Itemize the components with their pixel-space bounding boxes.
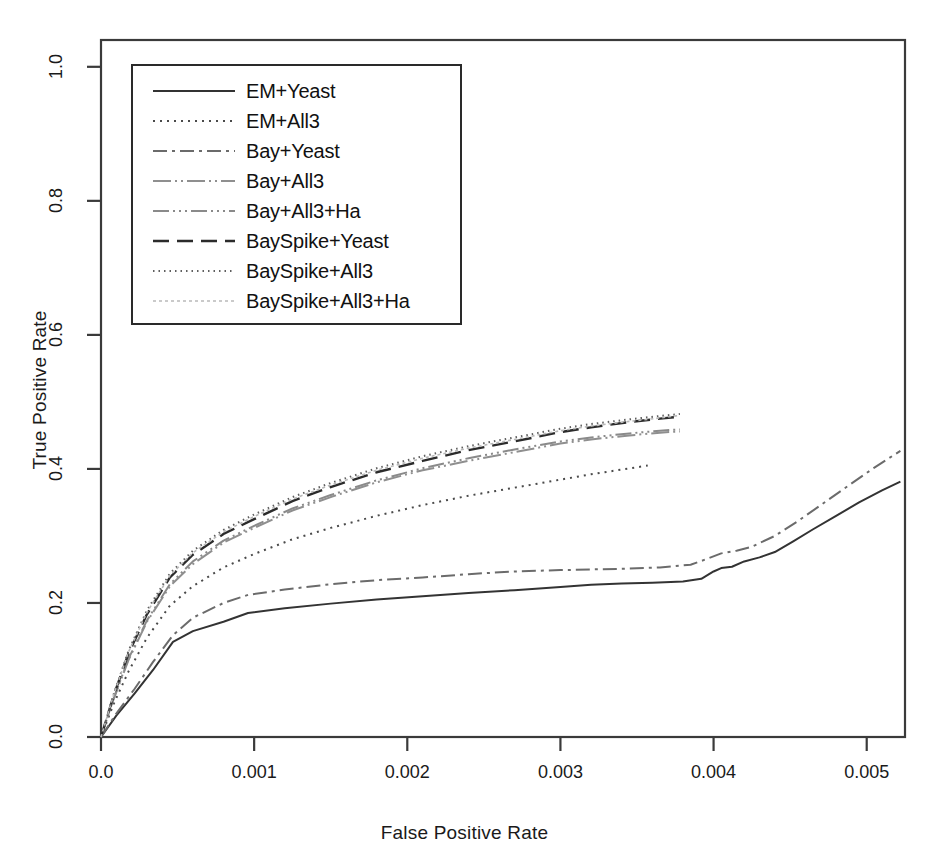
legend-item-label: Bay+Yeast — [246, 140, 340, 163]
y-tick-label: 0.8 — [46, 180, 67, 220]
legend-line-swatch-icon — [151, 166, 246, 196]
legend-item-bayspike-yeast[interactable]: BaySpike+Yeast — [133, 226, 464, 256]
legend-item-label: Bay+All3 — [246, 170, 324, 193]
x-tick-label: 0.005 — [844, 762, 889, 783]
legend-item-bay-all3[interactable]: Bay+All3 — [133, 166, 464, 196]
legend-item-em-yeast[interactable]: EM+Yeast — [133, 76, 464, 106]
legend-item-bay-yeast[interactable]: Bay+Yeast — [133, 136, 464, 166]
legend: EM+YeastEM+All3Bay+YeastBay+All3Bay+All3… — [131, 64, 462, 325]
series-line-bayspike-yeast — [101, 417, 680, 737]
legend-item-bayspike-all3-ha[interactable]: BaySpike+All3+Ha — [133, 286, 464, 316]
legend-item-em-all3[interactable]: EM+All3 — [133, 106, 464, 136]
legend-item-bayspike-all3[interactable]: BaySpike+All3 — [133, 256, 464, 286]
x-tick-label: 0.002 — [385, 762, 430, 783]
x-tick-label: 0.004 — [691, 762, 736, 783]
legend-line-swatch-icon — [151, 286, 246, 316]
legend-line-swatch-icon — [151, 136, 246, 166]
series-line-em-all3 — [101, 466, 648, 737]
legend-line-swatch-icon — [151, 76, 246, 106]
legend-line-swatch-icon — [151, 106, 246, 136]
x-tick-label: 0.001 — [232, 762, 277, 783]
series-line-bay-all3-ha — [101, 429, 680, 737]
series-line-bayspike-all3 — [101, 414, 680, 737]
legend-item-label: Bay+All3+Ha — [246, 200, 361, 223]
legend-item-bay-all3-ha[interactable]: Bay+All3+Ha — [133, 196, 464, 226]
series-lines — [101, 414, 900, 737]
x-axis-title: False Positive Rate — [0, 822, 929, 844]
series-line-bayspike-all3-ha — [101, 415, 680, 737]
y-tick-label: 0.2 — [46, 582, 67, 622]
y-tick-label: 0.0 — [46, 717, 67, 757]
x-tick-label: 0.003 — [538, 762, 583, 783]
roc-chart: 0.00.0010.0020.0030.0040.005 0.00.20.40.… — [0, 0, 929, 859]
legend-item-label: BaySpike+All3+Ha — [246, 290, 410, 313]
y-tick-label: 1.0 — [46, 46, 67, 86]
x-tick-label: 0.0 — [88, 762, 113, 783]
legend-item-label: BaySpike+All3 — [246, 260, 373, 283]
series-line-bay-yeast — [101, 451, 900, 737]
legend-line-swatch-icon — [151, 256, 246, 286]
legend-item-label: EM+All3 — [246, 110, 320, 133]
y-axis-title: True Positive Rate — [29, 310, 51, 469]
series-line-em-yeast — [101, 482, 900, 737]
legend-item-label: BaySpike+Yeast — [246, 230, 389, 253]
legend-item-label: EM+Yeast — [246, 80, 335, 103]
legend-line-swatch-icon — [151, 196, 246, 226]
legend-line-swatch-icon — [151, 226, 246, 256]
